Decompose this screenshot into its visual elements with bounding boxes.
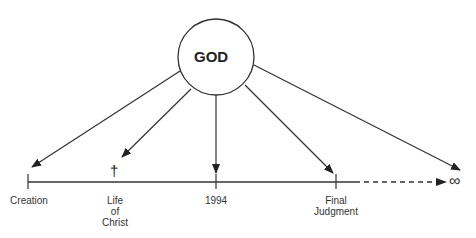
label-judgment: Judgment bbox=[306, 206, 366, 217]
label-final-judgment: Final Judgment bbox=[306, 195, 366, 217]
infinity-icon: ∞ bbox=[449, 172, 460, 190]
label-life: Life bbox=[95, 195, 135, 206]
label-christ: Christ bbox=[95, 217, 135, 228]
label-life-of-christ: Life of Christ bbox=[95, 195, 135, 228]
cross-icon: † bbox=[110, 162, 118, 179]
label-of: of bbox=[95, 206, 135, 217]
god-label: GOD bbox=[194, 48, 228, 65]
diagram-canvas bbox=[0, 0, 476, 238]
arrow-to-infinity bbox=[254, 65, 460, 170]
label-final: Final bbox=[306, 195, 366, 206]
label-1994: 1994 bbox=[196, 195, 236, 206]
arrow-to-life-of-christ bbox=[122, 89, 191, 157]
label-creation: Creation bbox=[4, 195, 54, 206]
arrow-to-creation bbox=[32, 71, 180, 167]
timeline-arrowhead bbox=[436, 178, 447, 186]
